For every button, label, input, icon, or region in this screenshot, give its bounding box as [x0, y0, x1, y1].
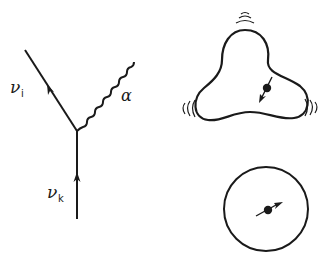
trefoil-particle	[263, 84, 271, 92]
circular-cavity-diagram	[224, 167, 308, 251]
boson-label: α	[121, 86, 132, 105]
vibration-marks-left-icon	[183, 100, 195, 117]
trefoil-boundary	[195, 30, 307, 120]
outgoing-fermion-label: ν	[10, 77, 20, 97]
circle-particle	[264, 206, 272, 214]
incoming-fermion-subscript: k	[58, 193, 64, 204]
deformed-cavity-diagram	[183, 13, 317, 121]
vibration-marks-top-icon	[236, 13, 254, 24]
feynman-vertex-diagram: ν i ν k α	[10, 50, 134, 219]
outgoing-fermion-subscript: i	[21, 88, 24, 99]
diagram-canvas: ν i ν k α	[0, 0, 324, 263]
incoming-fermion-label: ν	[47, 182, 57, 202]
